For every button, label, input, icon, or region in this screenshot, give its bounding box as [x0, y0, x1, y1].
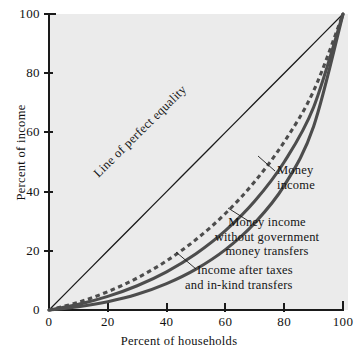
annotation-no-transfers-line3: money transfers [167, 244, 358, 259]
annotation-money-income-line2: income [277, 178, 315, 192]
annotation-income-after-taxes: Income after taxes and in-kind transfers [197, 263, 293, 292]
annotation-after-taxes-line2: and in-kind transfers [185, 278, 293, 293]
annotation-money-income: Money income [277, 163, 315, 192]
lorenz-curve-figure: 020406080100 020406080100 Line of perfec… [0, 0, 358, 351]
lorenz-curves [49, 14, 343, 310]
annotation-no-transfers-line1: Money income [167, 215, 358, 230]
annotation-no-transfers-line2: without government [167, 230, 358, 245]
x-axis-title: Percent of households [0, 334, 358, 349]
annotation-after-taxes-line1: Income after taxes [197, 263, 293, 277]
y-axis-title: Percent of income [14, 63, 29, 243]
annotation-money-income-line1: Money [277, 163, 313, 177]
